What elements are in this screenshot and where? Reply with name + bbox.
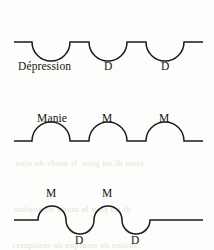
label-depression: Dépression	[18, 60, 71, 73]
label-depression-d1: D	[104, 60, 112, 73]
manie-waveform	[0, 116, 214, 166]
label-bipolar-d2: D	[131, 234, 139, 247]
label-bipolar-d1: D	[75, 234, 83, 247]
manie-curve-path	[14, 122, 203, 141]
bipolar-curve-path	[14, 206, 203, 234]
depression-curve-path	[14, 42, 203, 61]
label-depression-d2: D	[161, 60, 169, 73]
bipolar-waveform	[0, 194, 214, 246]
